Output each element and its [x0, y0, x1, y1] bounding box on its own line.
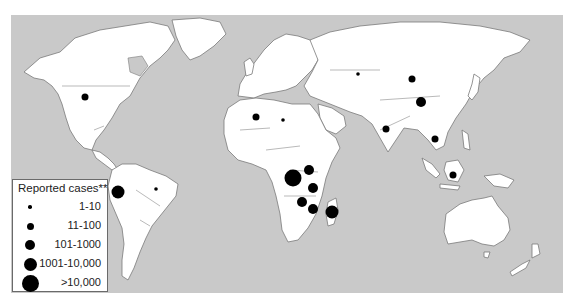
legend-marker-icon [24, 258, 37, 271]
legend-item: >10,000 [13, 273, 109, 293]
legend-label: 11-100 [68, 219, 101, 231]
legend-title: Reported cases** [18, 182, 108, 194]
legend-marker-icon [28, 205, 32, 209]
case-marker [154, 187, 158, 191]
new-guinea [484, 174, 514, 188]
legend: Reported cases** 1-1011-100101-10001001-… [12, 179, 108, 292]
legend-marker-icon [22, 275, 39, 292]
case-marker [281, 118, 285, 122]
case-marker [297, 197, 307, 207]
legend-item: 1001-10,000 [13, 254, 109, 274]
new-zealand [510, 244, 540, 276]
greenland [172, 18, 226, 60]
australia [444, 196, 510, 246]
case-marker [356, 72, 360, 76]
central-america [92, 150, 118, 170]
legend-label: 101-1000 [55, 238, 102, 250]
java [440, 184, 460, 190]
legend-item: 1-10 [13, 197, 109, 217]
case-marker [326, 206, 339, 219]
case-marker [383, 126, 390, 133]
legend-label: 1001-10,000 [39, 257, 101, 269]
case-marker [82, 94, 89, 101]
case-marker [253, 114, 260, 121]
case-marker [304, 165, 314, 175]
legend-marker-icon [27, 223, 34, 230]
case-marker [450, 172, 457, 179]
legend-marker-icon [25, 240, 35, 250]
case-marker [432, 136, 439, 143]
case-marker [112, 186, 125, 199]
borneo [444, 160, 464, 182]
uk [244, 58, 254, 76]
case-marker [409, 76, 416, 83]
case-marker [416, 97, 426, 107]
case-marker [308, 183, 318, 193]
philippines [462, 130, 470, 150]
case-marker [285, 170, 302, 187]
legend-item: 11-100 [13, 216, 109, 236]
tasmania [484, 252, 490, 258]
case-marker [308, 204, 318, 214]
legend-item: 101-1000 [13, 235, 109, 255]
sumatra [422, 158, 440, 178]
legend-label: >10,000 [61, 276, 101, 288]
legend-label: 1-10 [79, 200, 101, 212]
